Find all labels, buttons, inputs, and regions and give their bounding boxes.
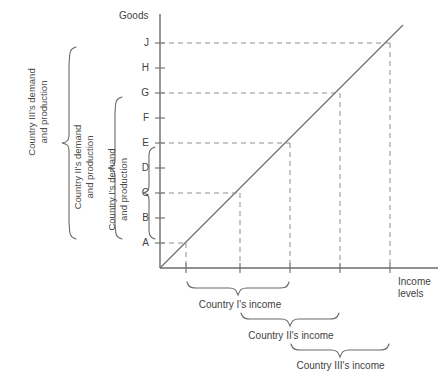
y-tick-label-E: E [133,138,149,148]
y-axis-title: Goods [119,10,148,22]
brace-label-country-3-line2: and production [38,37,50,187]
y-tick-label-J: J [133,38,149,48]
brace-label-country-1-line2: and production [118,117,130,262]
forty-five-degree-line [160,25,403,268]
economics-diagram: Goods Income levels J H G F E D C B A Co… [0,0,446,376]
y-tick-label-B: B [133,213,149,223]
x-axis-title-line1: Income [398,276,431,288]
y-tick-label-F: F [133,113,149,123]
brace-label-country-2-line1: Country II's demand [72,92,84,242]
vertical-guides [186,43,390,266]
brace-label-country-2-line2: and production [84,92,96,242]
brace-x-country-2 [241,313,339,326]
brace-label-income-3: Country III's income [288,360,393,372]
y-tick-label-H: H [133,63,149,73]
brace-label-country-3-line1: Country III's demand [26,37,38,187]
brace-label-country-1-line1: Country I's demand [106,117,118,262]
brace-x-country-3 [291,344,389,357]
chart-graphics [0,0,446,376]
brace-x-country-1 [187,282,289,295]
x-axis-title-line2: levels [398,288,424,300]
y-tick-label-A: A [133,238,149,248]
y-tick-label-C: C [133,188,149,198]
y-tick-label-G: G [133,88,149,98]
brace-label-income-1: Country I's income [190,299,290,311]
y-tick-label-D: D [133,163,149,173]
brace-label-income-2: Country II's income [240,330,342,342]
